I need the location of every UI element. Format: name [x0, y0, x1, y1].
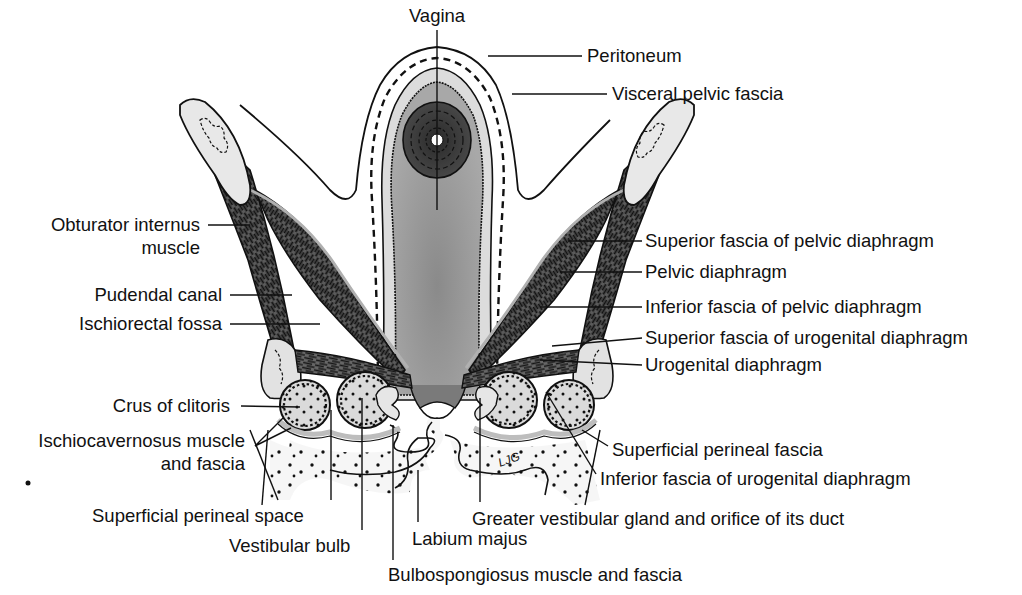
label-text: Superior fascia of urogenital diaphragm [645, 327, 968, 348]
label-text: Inferior fascia of pelvic diaphragm [645, 296, 922, 317]
label-ischiocavernosus-muscle-fascia: Ischiocavernosus muscleand fascia [38, 418, 291, 474]
label-text: Labium majus [412, 528, 527, 549]
label-text: Greater vestibular gland and orifice of … [472, 508, 844, 529]
label-text: Vagina [409, 5, 466, 26]
label-text: Obturator internus [51, 214, 200, 235]
label-text: Visceral pelvic fascia [612, 83, 784, 104]
stray-mark [26, 481, 31, 486]
label-text: Vestibular bulb [229, 535, 350, 556]
label-text: Superior fascia of pelvic diaphragm [645, 230, 934, 251]
anatomy-diagram: LJG [0, 0, 1022, 595]
vestibule [420, 408, 454, 418]
label-layer: VaginaPeritoneumVisceral pelvic fasciaOb… [38, 5, 968, 585]
pelvis-coronal-section-figure: LJG [0, 0, 1022, 595]
label-superficial-perineal-fascia: Superficial perineal fascia [582, 430, 824, 460]
label-text: Superficial perineal fascia [612, 439, 824, 460]
leader-line [582, 430, 608, 446]
label-text: Peritoneum [587, 45, 682, 66]
label-text: Pelvic diaphragm [645, 261, 787, 282]
label-text: Superficial perineal space [92, 505, 304, 526]
leader-line [241, 406, 300, 407]
label-superior-fascia-urogenital-diaphragm: Superior fascia of urogenital diaphragm [552, 327, 968, 348]
label-text: Ischiocavernosus muscle [38, 430, 245, 451]
label-text: Inferior fascia of urogenital diaphragm [600, 468, 911, 489]
label-text: and fascia [161, 453, 246, 474]
left-pelvic-wall [180, 99, 412, 442]
label-text: Ischiorectal fossa [79, 313, 223, 334]
label-obturator-internus-muscle: Obturator internusmuscle [51, 214, 250, 258]
label-text: Urogenital diaphragm [645, 354, 822, 375]
label-text: Pudendal canal [94, 284, 222, 305]
label-text: Bulbospongiosus muscle and fascia [388, 564, 683, 585]
label-text: Crus of clitoris [113, 395, 230, 416]
label-visceral-pelvic-fascia: Visceral pelvic fascia [512, 83, 784, 104]
label-text: muscle [141, 237, 200, 258]
left-crus [280, 380, 330, 430]
label-peritoneum: Peritoneum [488, 45, 682, 66]
right-crus [544, 380, 594, 430]
